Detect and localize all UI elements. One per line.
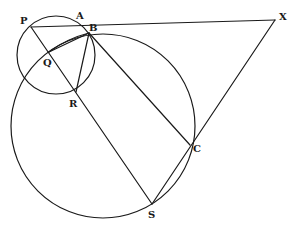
point-label-x: X — [279, 11, 287, 22]
segment-PS — [31, 27, 152, 204]
segment-XS — [152, 20, 275, 204]
point-label-c: C — [193, 143, 201, 154]
point-label-a: A — [75, 10, 84, 21]
point-label-b: B — [89, 22, 97, 33]
segments — [31, 20, 275, 204]
point-label-s: S — [148, 209, 155, 220]
point-label-r: R — [69, 98, 78, 109]
segment-BC — [89, 33, 190, 145]
segment-BQ — [49, 33, 89, 52]
circles — [11, 16, 195, 218]
large-circle — [11, 34, 195, 218]
point-labels: PABQRXCS — [20, 10, 287, 220]
point-label-q: Q — [43, 57, 52, 68]
geometry-diagram: PABQRXCS — [0, 0, 301, 228]
small-circle — [17, 16, 95, 94]
point-label-p: P — [20, 15, 28, 26]
segment-PX — [31, 20, 275, 27]
